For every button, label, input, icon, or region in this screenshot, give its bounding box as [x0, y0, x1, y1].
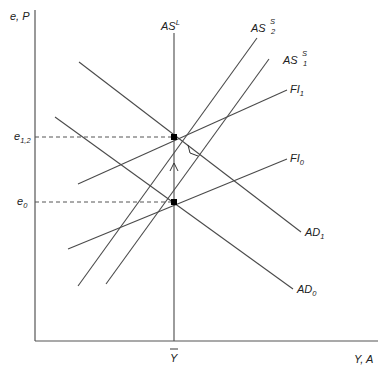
x-axis-label: Y, A [354, 353, 373, 365]
fi-0-curve [68, 159, 287, 249]
svg-text:S: S [270, 17, 275, 26]
equilibrium-point-initial [171, 199, 177, 205]
ad-1-label: AD1 [304, 226, 324, 241]
fi-0-label: FI0 [290, 152, 305, 167]
svg-text:2: 2 [270, 27, 276, 36]
fi-1-curve [78, 90, 287, 184]
as-short-run-2-label: AS S 2 [250, 17, 276, 36]
svg-text:AS: AS [250, 22, 266, 34]
ad-1-curve [79, 62, 301, 232]
svg-text:1: 1 [303, 59, 307, 68]
as-short-run-1-label: AS S 1 [282, 49, 307, 68]
fi-1-label: FI1 [290, 83, 304, 98]
diagram-canvas: e, P Y, A Y e1,2 e0 ASL AS S 2 AS S 1 FI… [0, 0, 387, 370]
svg-text:S: S [302, 49, 307, 58]
svg-text:Y: Y [170, 352, 178, 364]
e12-label: e1,2 [14, 130, 31, 145]
as-long-run-label: ASL [160, 18, 180, 32]
y-axis-label: e, P [10, 10, 30, 22]
equilibrium-point-final [171, 134, 177, 140]
y-bar-tick-label: Y [170, 349, 178, 364]
ad-0-label: AD0 [296, 283, 317, 298]
e0-label: e0 [17, 195, 28, 210]
svg-text:AS: AS [282, 54, 298, 66]
as-short-run-2-curve [78, 38, 257, 286]
